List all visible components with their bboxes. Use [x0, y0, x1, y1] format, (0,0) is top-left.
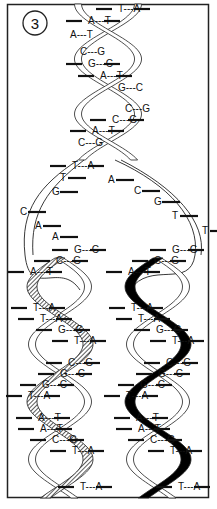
daughter-left-base-pair-10: T---A [28, 390, 51, 401]
daughter-right-base-pair-15: T---A [178, 481, 201, 492]
daughter-right-base-pair-14: T---A [170, 445, 193, 456]
daughter-right-base-pair-7: C---G [166, 357, 191, 368]
parent-base-pair-8: C---G [112, 114, 137, 125]
daughter-left-base-pair-3: T---A [33, 302, 56, 313]
daughter-left-base-pair-7: C---G [68, 357, 93, 368]
daughter-right-base-pair-13: C---G [150, 434, 175, 445]
daughter-right-base-pair-3: T---A [131, 302, 154, 313]
panel-number: 3 [31, 15, 39, 32]
daughter-left-base-pair-2: A---T [30, 266, 53, 277]
dna-replication-figure: 3 T---AA---TA---TC---GG---CA---TG---CC--… [0, 0, 217, 509]
daughter-left-base-pair-11: A---T [38, 412, 61, 423]
daughter-left-base-pair-12: A---T [40, 423, 63, 434]
daughter-left-base-pair-0: G---C [74, 244, 99, 255]
daughter-right-base-pair-11: A---T [136, 412, 159, 423]
fork-right-strand-inner [121, 160, 202, 255]
parent-base-pair-6: G---C [118, 82, 143, 93]
left-unpaired-base-1: G [52, 186, 60, 197]
daughter-left-base-pair-9: G---C [42, 379, 67, 390]
daughter-left-base-pair-13: C---G [52, 434, 77, 445]
daughter-right-base-pair-2: A---T [128, 266, 151, 277]
parent-base-pair-2: A---T [70, 29, 93, 40]
daughter-right-base-pair-4: T---A [138, 313, 161, 324]
daughter-left-base-pair-14: T---A [72, 445, 95, 456]
right-unpaired-base-2: G [154, 196, 162, 207]
daughter-left-base-pair-8: G---C [60, 368, 85, 379]
parent-base-pair-0: T---A [118, 3, 141, 14]
daughter-left-base-pair-6: T---A [74, 335, 97, 346]
parent-base-pair-7: C---G [125, 103, 150, 114]
right-unpaired-base-0: A [108, 174, 115, 185]
left-unpaired-base-3: A [35, 220, 42, 231]
parent-base-pair-4: G---C [88, 58, 113, 69]
daughter-right-base-pair-5: G---C [156, 324, 181, 335]
left-unpaired-base-4: A [52, 231, 59, 242]
right-unpaired-base-4: T [202, 225, 208, 236]
daughter-right-base-pair-0: G---G [172, 244, 198, 255]
daughter-right-base-pair-12: A---T [138, 423, 161, 434]
daughter-right-base-pair-9: G---C [140, 379, 165, 390]
daughter-left-base-pair-1: C---G [56, 255, 81, 266]
daughter-left-base-pair-5: G---C [58, 324, 83, 335]
parent-base-pair-9: A---T [92, 125, 115, 136]
daughter-right-base-pair-8: G---C [158, 368, 183, 379]
daughter-right-base-pair-10: T---A [126, 390, 149, 401]
left-unpaired-base-2: C [20, 206, 27, 217]
diagram-canvas: 3 T---AA---TA---TC---GG---CA---TG---CC--… [0, 0, 217, 509]
daughter-right-base-pair-1: C---G [154, 255, 179, 266]
parent-base-pair-11: T---A [72, 160, 95, 171]
left-unpaired-base-0: T [60, 172, 66, 183]
right-unpaired-base-1: C [134, 185, 141, 196]
daughter-left-base-pair-4: T---A [40, 313, 63, 324]
parent-base-pair-5: A---T [100, 70, 123, 81]
daughter-left-base-pair-15: T---A [80, 481, 103, 492]
daughter-right-base-pair-6: T---A [172, 335, 195, 346]
right-unpaired-base-3: T [172, 210, 178, 221]
parent-base-pair-10: C---G [78, 137, 103, 148]
parent-base-pair-3: C---G [80, 46, 105, 57]
parent-base-pair-1: A---T [88, 15, 111, 26]
